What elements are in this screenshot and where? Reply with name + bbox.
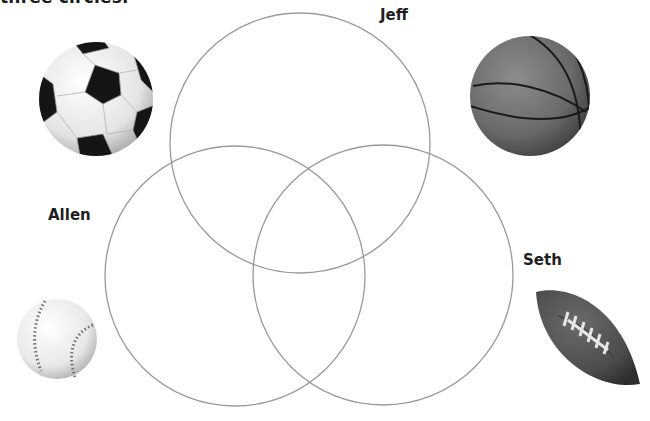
venn-circle-jeff xyxy=(170,13,430,273)
venn-circle-allen xyxy=(105,146,365,406)
baseball-icon xyxy=(15,297,99,381)
venn-circle-seth xyxy=(253,145,513,405)
football-icon xyxy=(528,286,644,390)
soccer-ball-icon xyxy=(37,40,155,158)
label-allen: Allen xyxy=(48,206,91,224)
label-seth: Seth xyxy=(523,251,562,269)
basketball-icon xyxy=(468,34,592,158)
label-jeff: Jeff xyxy=(380,6,408,24)
